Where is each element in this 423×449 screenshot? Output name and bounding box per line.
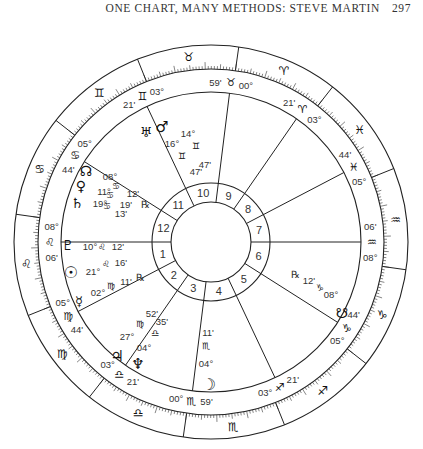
degree-tick: [265, 71, 267, 78]
degree-tick: [267, 406, 268, 409]
degree-tick: [52, 167, 55, 168]
degree-tick: [38, 202, 43, 203]
degree-tick: [53, 165, 56, 166]
degree-tick: [190, 65, 191, 70]
degree-tick: [110, 98, 112, 100]
degree-tick: [52, 157, 58, 160]
degree-tick: [324, 373, 326, 375]
degree-tick: [329, 112, 332, 116]
degree-tick: [302, 389, 306, 395]
degree-tick: [41, 292, 46, 293]
house-number: 2: [171, 269, 177, 281]
degree-tick: [46, 301, 49, 302]
position-label: ℞: [136, 272, 145, 283]
degree-tick: [349, 135, 353, 138]
degree-tick: [259, 73, 260, 76]
degree-tick: [40, 284, 43, 285]
degree-tick: [136, 399, 137, 402]
degree-tick: [52, 320, 56, 322]
degree-tick: [137, 82, 138, 85]
degree-tick: [335, 362, 337, 364]
degree-tick: [383, 221, 388, 222]
degree-tick: [341, 356, 343, 358]
house-number: 10: [197, 187, 209, 199]
degree-tick: [108, 99, 110, 101]
degree-tick: [42, 193, 45, 194]
degree-tick: [54, 162, 57, 163]
house-number: 12: [157, 222, 169, 234]
degree-tick: [305, 93, 308, 97]
degree-tick: [76, 353, 78, 355]
position-label: 11': [120, 276, 132, 287]
degree-tick: [121, 91, 123, 94]
degree-tick: [356, 146, 359, 148]
zodiac-sign-icon: ♍: [57, 347, 68, 361]
degree-tick: [312, 382, 314, 384]
degree-tick: [89, 368, 92, 372]
degree-tick: [278, 401, 279, 404]
degree-tick: [327, 371, 332, 376]
cusp-sign-icon: ♏: [186, 395, 196, 408]
degree-tick: [362, 157, 365, 158]
degree-tick: [356, 336, 360, 339]
planet-icon: ☉: [64, 263, 78, 282]
degree-tick: [372, 304, 375, 305]
sign-boundary: [56, 120, 75, 135]
zodiac-sign-icon: ♌: [21, 257, 32, 271]
degree-tick: [379, 281, 384, 282]
cusp-degree: 03°: [258, 387, 273, 398]
degree-tick: [45, 184, 48, 185]
cusp-sign-icon: ♐: [275, 381, 285, 394]
degree-tick: [87, 117, 89, 119]
degree-tick: [35, 278, 42, 279]
degree-tick: [50, 312, 53, 313]
degree-tick: [151, 404, 152, 407]
degree-tick: [292, 395, 293, 398]
degree-tick: [327, 111, 329, 113]
degree-tick: [50, 170, 53, 171]
house-cusp-line: [216, 93, 230, 202]
degree-tick: [47, 179, 50, 180]
degree-tick: [165, 409, 166, 412]
degree-tick: [131, 396, 132, 399]
house-number: 11: [173, 199, 184, 211]
cusp-minute: 21': [127, 376, 140, 387]
degree-tick: [255, 409, 256, 412]
cusp-degree: 05°: [78, 138, 93, 149]
degree-tick: [155, 406, 157, 413]
degree-tick: [134, 84, 135, 87]
degree-tick: [366, 318, 369, 319]
degree-tick: [289, 396, 291, 400]
zodiac-sign-icon: ♈: [279, 64, 290, 78]
degree-tick: [273, 78, 274, 81]
degree-tick: [134, 397, 135, 400]
degree-tick: [65, 338, 67, 340]
degree-tick: [310, 384, 312, 386]
degree-tick: [290, 85, 291, 88]
degree-tick: [41, 286, 44, 287]
degree-tick: [85, 120, 87, 122]
degree-tick: [159, 72, 160, 77]
sign-boundary: [372, 169, 394, 178]
sign-icon: ♏: [202, 341, 210, 351]
position-label: 27°: [120, 331, 135, 342]
degree-tick: [368, 315, 371, 316]
degree-tick: [125, 393, 126, 396]
degree-tick: [44, 298, 47, 299]
degree-tick: [331, 367, 333, 369]
degree-tick: [262, 74, 263, 77]
degree-tick: [281, 400, 282, 403]
sign-boundary: [28, 307, 50, 316]
degree-tick: [41, 196, 44, 197]
degree-tick: [362, 326, 365, 327]
planet-icon: ☊: [80, 163, 92, 179]
degree-tick: [63, 336, 66, 338]
degree-tick: [346, 131, 348, 133]
zodiac-sign-icon: ♑: [377, 308, 388, 322]
degree-tick: [345, 351, 347, 353]
degree-tick: [78, 355, 80, 357]
degree-tick: [284, 399, 285, 402]
degree-tick: [256, 72, 257, 75]
degree-tick: [103, 103, 105, 105]
degree-tick: [359, 331, 362, 333]
